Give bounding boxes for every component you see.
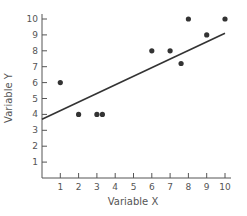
- x-tick-label: 5: [131, 182, 137, 192]
- data-point: [76, 112, 81, 117]
- data-point: [58, 80, 63, 85]
- y-tick-label: 4: [32, 109, 38, 119]
- scatter-chart: 1234567891012345678910 Variable X Variab…: [0, 0, 247, 216]
- regression-line: [42, 33, 225, 119]
- data-point: [94, 112, 99, 117]
- data-points: [58, 16, 228, 117]
- data-point: [186, 16, 191, 21]
- data-point: [178, 61, 183, 66]
- x-tick-label: 8: [186, 182, 192, 192]
- y-tick-label: 2: [32, 141, 38, 151]
- y-tick-label: 9: [32, 30, 38, 40]
- y-tick-label: 3: [32, 125, 38, 135]
- x-tick-label: 10: [219, 182, 231, 192]
- y-tick-label: 6: [32, 78, 38, 88]
- x-tick-label: 9: [204, 182, 210, 192]
- x-tick-label: 3: [94, 182, 100, 192]
- data-point: [100, 112, 105, 117]
- data-point: [204, 32, 209, 37]
- data-point: [222, 16, 227, 21]
- y-tick-label: 8: [32, 46, 38, 56]
- trend-line: [42, 33, 225, 119]
- x-tick-label: 4: [112, 182, 118, 192]
- y-tick-label: 10: [27, 14, 39, 24]
- x-axis-title: Variable X: [108, 196, 159, 207]
- y-tick-label: 1: [32, 157, 38, 167]
- x-tick-label: 1: [57, 182, 63, 192]
- y-axis-title: Variable Y: [3, 72, 14, 123]
- y-tick-label: 5: [32, 94, 38, 104]
- x-tick-label: 2: [76, 182, 82, 192]
- x-tick-label: 6: [149, 182, 155, 192]
- x-tick-label: 7: [167, 182, 173, 192]
- data-point: [168, 48, 173, 53]
- y-tick-label: 7: [32, 62, 38, 72]
- data-point: [149, 48, 154, 53]
- axes: 1234567891012345678910: [27, 14, 231, 192]
